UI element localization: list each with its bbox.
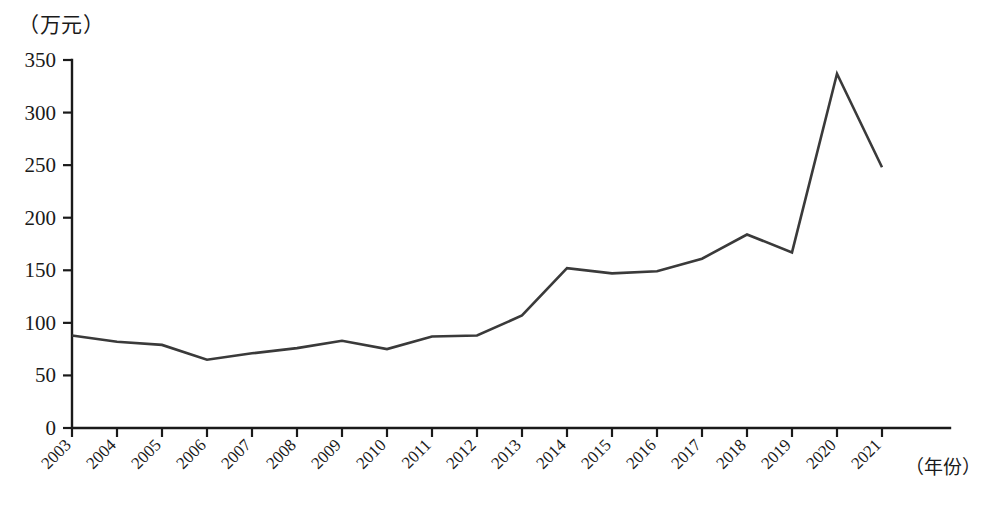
- x-tick-label: 2015: [577, 435, 614, 472]
- x-tick-label: 2005: [127, 435, 164, 472]
- line-chart: （万元） （年份） 050100150200250300350 20032004…: [0, 0, 997, 514]
- x-tick-label: 2013: [487, 435, 524, 472]
- y-tick-label-group: 050100150200250300350: [25, 48, 57, 440]
- x-tick-label-group: 2003200420052006200720082009201020112012…: [37, 435, 884, 473]
- x-tick-label: 2011: [398, 435, 435, 472]
- y-tick-label: 250: [25, 153, 57, 177]
- x-tick-label: 2014: [532, 435, 570, 473]
- x-tick-label: 2008: [262, 435, 299, 472]
- x-tick-label: 2017: [667, 435, 705, 473]
- y-tick-label: 200: [25, 206, 57, 230]
- x-tick-label: 2012: [442, 435, 479, 472]
- x-tick-mark-group: [72, 428, 882, 437]
- y-tick-label: 300: [25, 101, 57, 125]
- data-series-line: [72, 74, 882, 360]
- x-tick-label: 2019: [757, 435, 794, 472]
- y-tick-label: 50: [35, 363, 56, 387]
- x-tick-label: 2003: [37, 435, 74, 472]
- y-tick-label: 0: [46, 416, 57, 440]
- x-tick-label: 2006: [172, 435, 209, 472]
- x-tick-label: 2010: [352, 435, 389, 472]
- chart-axes: [72, 60, 950, 428]
- y-tick-label: 350: [25, 48, 57, 72]
- x-tick-label: 2016: [622, 435, 659, 472]
- x-tick-label: 2020: [802, 435, 839, 472]
- x-tick-label: 2009: [307, 435, 344, 472]
- x-tick-label: 2004: [82, 435, 120, 473]
- y-tick-mark-group: [63, 60, 72, 428]
- plot-area: 050100150200250300350 200320042005200620…: [0, 0, 997, 514]
- x-tick-label: 2018: [712, 435, 749, 472]
- x-tick-label: 2007: [217, 435, 255, 473]
- x-tick-label: 2021: [847, 435, 884, 472]
- y-tick-label: 150: [25, 258, 57, 282]
- y-tick-label: 100: [25, 311, 57, 335]
